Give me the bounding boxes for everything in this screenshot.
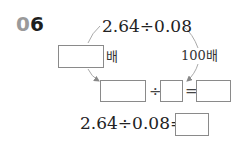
final-expression: 2.64÷0.08= [80,113,184,133]
top-expression: 2.64÷0.08 [102,16,192,36]
left-arc-lower [88,69,99,81]
quotient-answer-box[interactable] [196,80,231,102]
divisor-answer-box[interactable] [160,80,183,102]
dividend-answer-box[interactable] [100,80,146,102]
left-multiplier-suffix: 배 [106,49,118,65]
left-arc-upper [88,26,100,43]
left-multiplier-answer-box[interactable] [58,45,104,68]
right-arc-lower [187,64,198,81]
right-multiplier-label: 100배 [181,48,218,64]
final-answer-box[interactable] [175,113,209,136]
